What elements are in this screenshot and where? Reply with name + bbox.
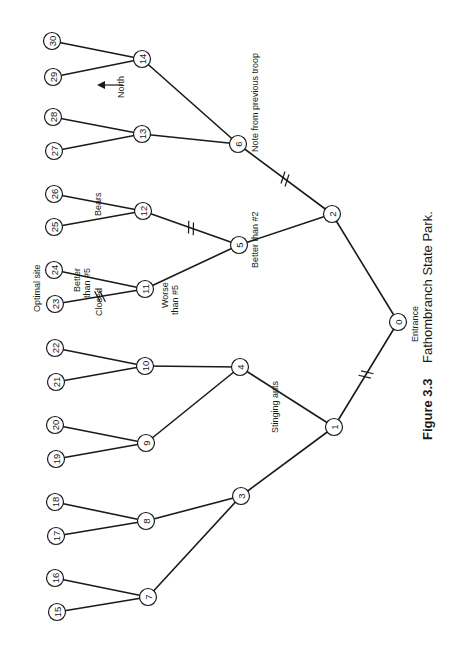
svg-text:27: 27 [49, 146, 60, 157]
node-15: 15 [49, 604, 66, 621]
edges-layer [52, 41, 398, 612]
label-closed: Closed [94, 288, 104, 316]
node-1: 1 [326, 419, 343, 436]
blocked-marker-icon [285, 174, 289, 186]
edge-6-13 [142, 134, 238, 144]
edge-14-29 [53, 59, 142, 77]
edge-3-7 [148, 496, 241, 597]
node-24: 24 [46, 262, 63, 279]
label-stinging-ants: Stinging ants [270, 380, 280, 433]
edge-2-6 [238, 144, 332, 214]
figure-title: Fathombranch State Park. [420, 211, 435, 363]
label-worse-than-5-a: Worse [160, 282, 170, 308]
edge-8-18 [55, 502, 146, 521]
edge-10-22 [55, 348, 145, 366]
svg-text:26: 26 [49, 189, 60, 200]
edge-3-8 [146, 496, 241, 521]
edge-13-27 [54, 134, 142, 151]
node-0: 0 [390, 314, 407, 331]
node-20: 20 [47, 417, 64, 434]
edge-8-17 [56, 521, 146, 536]
svg-text:8: 8 [141, 518, 152, 523]
label-optimal-site: Optimal site [32, 264, 42, 312]
edge-13-28 [53, 117, 142, 134]
node-22: 22 [47, 340, 64, 357]
node-5: 5 [231, 237, 248, 254]
svg-text:17: 17 [51, 531, 62, 542]
node-30: 30 [44, 33, 61, 50]
svg-text:24: 24 [49, 265, 60, 276]
nodes-layer: 0123456789101112131415161718192021222324… [44, 33, 407, 621]
node-26: 26 [46, 186, 63, 203]
edge-4-10 [145, 366, 240, 367]
node-2: 2 [324, 206, 341, 223]
node-14: 14 [134, 51, 151, 68]
svg-text:29: 29 [48, 72, 59, 83]
node-10: 10 [137, 358, 154, 375]
label-north: North [116, 76, 126, 98]
label-bears: Bears [93, 192, 103, 216]
svg-text:20: 20 [50, 420, 61, 431]
park-tree-diagram: 0123456789101112131415161718192021222324… [0, 0, 452, 654]
svg-text:28: 28 [48, 112, 59, 123]
node-8: 8 [138, 513, 155, 530]
svg-text:7: 7 [143, 594, 154, 599]
svg-text:1: 1 [329, 424, 340, 429]
svg-text:5: 5 [234, 242, 245, 247]
label-better-than-5-a: Better [72, 268, 82, 292]
node-25: 25 [46, 219, 63, 236]
svg-text:21: 21 [51, 377, 62, 388]
svg-text:0: 0 [393, 319, 404, 324]
svg-text:11: 11 [140, 284, 151, 294]
label-better-than-2: Better than #2 [250, 211, 260, 268]
svg-text:9: 9 [141, 440, 152, 445]
node-6: 6 [230, 136, 247, 153]
blocked-markers-layer [95, 172, 374, 379]
svg-text:13: 13 [137, 129, 148, 140]
node-3: 3 [233, 488, 250, 505]
label-worse-than-5-b: than #5 [170, 285, 180, 315]
node-11: 11 [137, 281, 154, 298]
svg-text:15: 15 [52, 607, 63, 618]
edge-5-12 [143, 211, 239, 245]
edge-1-3 [241, 427, 334, 496]
node-18: 18 [47, 494, 64, 511]
edge-7-16 [55, 578, 148, 597]
node-17: 17 [48, 528, 65, 545]
node-4: 4 [232, 359, 249, 376]
node-29: 29 [45, 69, 62, 86]
node-21: 21 [48, 374, 65, 391]
figure-number: Figure 3.3 [420, 379, 435, 440]
svg-text:16: 16 [50, 573, 61, 584]
label-note-from-previous-troop: Note from previous troop [250, 53, 260, 152]
node-27: 27 [46, 143, 63, 160]
label-entrance: Entrance [410, 306, 420, 342]
svg-text:22: 22 [50, 343, 61, 354]
svg-text:14: 14 [137, 54, 148, 65]
edge-4-9 [146, 367, 240, 443]
edge-14-30 [52, 41, 142, 59]
edge-0-1 [334, 322, 398, 427]
svg-text:25: 25 [49, 222, 60, 233]
edge-9-20 [55, 425, 146, 443]
svg-text:30: 30 [47, 36, 58, 47]
node-13: 13 [134, 126, 151, 143]
svg-text:2: 2 [327, 211, 338, 216]
node-7: 7 [140, 589, 157, 606]
node-16: 16 [47, 570, 64, 587]
label-better-than-5-b: than #5 [82, 268, 92, 298]
svg-text:19: 19 [51, 454, 62, 465]
blocked-marker-icon [281, 172, 285, 184]
svg-text:10: 10 [140, 361, 151, 372]
node-23: 23 [47, 296, 64, 313]
edge-6-14 [142, 59, 238, 144]
edge-10-21 [56, 366, 145, 382]
svg-text:3: 3 [236, 493, 247, 498]
svg-text:18: 18 [50, 497, 61, 508]
svg-text:4: 4 [235, 364, 246, 369]
node-28: 28 [45, 109, 62, 126]
edge-11-24 [54, 270, 145, 289]
edge-0-2 [332, 214, 398, 322]
svg-text:6: 6 [233, 141, 244, 146]
node-12: 12 [135, 203, 152, 220]
